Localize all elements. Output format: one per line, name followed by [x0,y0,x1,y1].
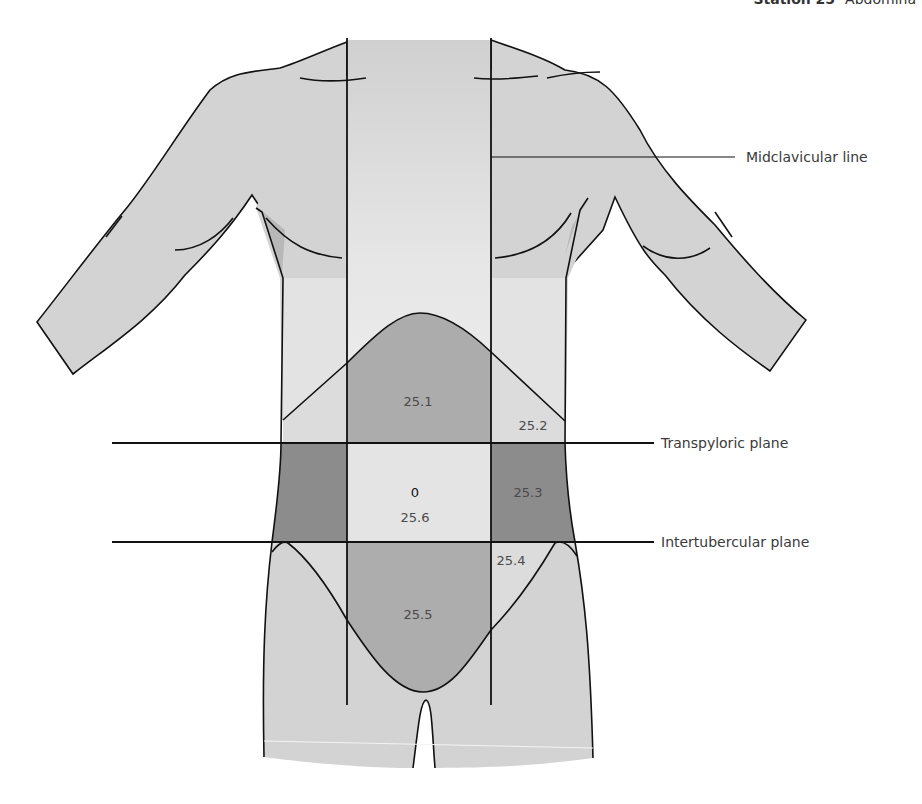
midclavicular-line-label: Midclavicular line [746,149,868,165]
header-section: Abdomina [845,0,916,7]
region-label-25-1: 25.1 [404,394,433,409]
page-header: Station 25Abdomina [753,0,916,7]
region-label-25-5: 25.5 [404,607,433,622]
transpyloric-plane-label: Transpyloric plane [660,435,788,451]
abdominal-regions-diagram: Station 25Abdomina [0,0,922,804]
body-figure: 25.1 25.2 25.3 0 25.6 25.4 25.5 Midclavi… [0,0,922,804]
intertubercular-plane-label: Intertubercular plane [661,534,809,550]
region-left-lumbar [272,443,347,542]
region-label-25-2: 25.2 [519,418,548,433]
region-label-25-4: 25.4 [497,553,526,568]
region-label-25-3: 25.3 [514,485,543,500]
header-station: Station 25 [753,0,835,7]
umbilicus-marker: 0 [411,485,419,500]
region-label-25-6: 25.6 [401,510,430,525]
